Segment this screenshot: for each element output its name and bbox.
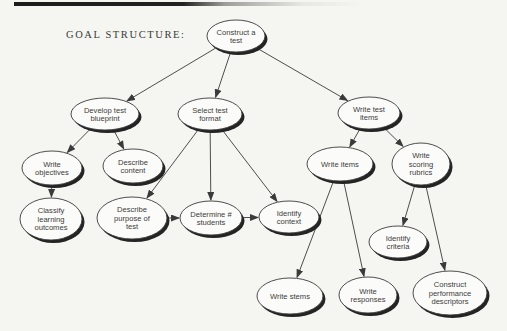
node-write-stems: Write stems — [257, 278, 326, 317]
node-label: Write stems — [270, 292, 310, 301]
node-write-scoring-rubrics: Writescoringrubrics — [392, 143, 453, 188]
node-label: Constructperformancedescriptors — [429, 280, 472, 306]
goal-structure-diagram: Construct atestDevelop testblueprintSele… — [0, 0, 507, 331]
edge-write-scoring-rubrics--identify-criteria — [403, 185, 415, 225]
edge-develop-blueprint--write-objectives — [67, 129, 90, 152]
node-construct-test: Construct atest — [207, 20, 268, 55]
node-write-test-items: Write testitems — [338, 97, 403, 132]
edge-write-test-items--write-scoring-rubrics — [384, 128, 403, 147]
node-label: Classifylearningoutcomes — [35, 206, 68, 232]
node-select-format: Select testformat — [178, 98, 245, 133]
edge-select-format--identify-context — [222, 130, 277, 202]
node-identify-criteria: Identifycriteria — [369, 226, 430, 261]
edge-construct-test--develop-blueprint — [127, 48, 215, 101]
edge-write-test-items--write-items — [350, 129, 360, 147]
node-classify-outcomes: Classifylearningoutcomes — [20, 198, 85, 243]
edge-write-scoring-rubrics--construct-descriptors — [426, 186, 445, 271]
node-label: Writescoringrubrics — [409, 151, 433, 177]
edge-write-items--write-responses — [344, 182, 364, 276]
node-describe-purpose: Describepurpose oftest — [97, 197, 170, 242]
node-write-items: Write items — [307, 147, 376, 184]
node-identify-context: Identifycontext — [259, 201, 322, 236]
node-label: Identifycontext — [277, 209, 302, 226]
node-label: Describecontent — [118, 158, 148, 175]
node-label: Identifycriteria — [386, 234, 411, 251]
node-determine-students: Determine #students — [180, 201, 245, 238]
edge-develop-blueprint--describe-content — [114, 130, 124, 148]
node-layer: Construct atestDevelop testblueprintSele… — [20, 20, 490, 318]
scanned-page: GOAL STRUCTURE: Construct atestDevelop t… — [0, 0, 507, 331]
node-write-responses: Writeresponses — [339, 277, 400, 316]
edge-construct-test--select-format — [216, 53, 231, 98]
edge-select-format--determine-students — [210, 131, 211, 200]
node-label: Write items — [321, 160, 359, 169]
node-develop-blueprint: Develop testblueprint — [71, 98, 142, 133]
node-describe-content: Describecontent — [103, 149, 166, 186]
node-construct-descriptors: Constructperformancedescriptors — [413, 271, 490, 318]
node-write-objectives: Writeobjectives — [22, 151, 85, 188]
edge-construct-test--write-test-items — [257, 48, 348, 100]
